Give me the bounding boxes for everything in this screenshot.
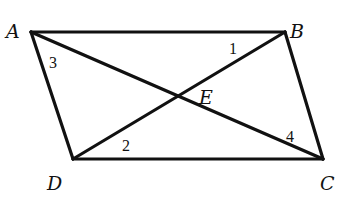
- vertex-label-c: C: [320, 172, 335, 194]
- vertex-labels: A B C D E: [4, 20, 335, 194]
- edges: [31, 32, 323, 159]
- angle-label-4: 4: [286, 128, 294, 145]
- angle-label-3: 3: [49, 54, 57, 71]
- segment-da: [31, 32, 73, 159]
- angle-label-1: 1: [229, 40, 237, 57]
- diagonal-bd: [73, 32, 285, 159]
- angle-label-2: 2: [122, 137, 130, 154]
- vertex-label-d: D: [46, 172, 62, 194]
- intersection-label-e: E: [198, 86, 213, 108]
- vertex-label-b: B: [289, 20, 304, 42]
- vertex-label-a: A: [4, 20, 20, 42]
- parallelogram-diagram: A B C D E 1 2 3 4: [0, 0, 346, 204]
